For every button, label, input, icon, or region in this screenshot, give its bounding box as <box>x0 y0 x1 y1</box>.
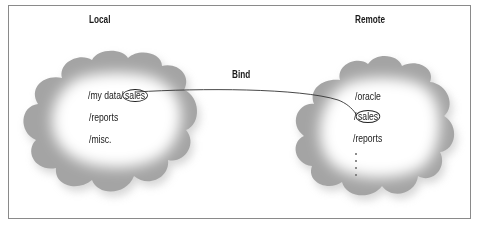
remote-path-oracle: /oracle <box>355 90 381 102</box>
remote-path-sales: /sales <box>354 110 381 123</box>
remote-cloud <box>296 56 458 200</box>
path-prefix: /my data/ <box>88 89 123 101</box>
local-cloud <box>23 51 200 197</box>
sales-highlight-oval: sales <box>123 89 148 102</box>
bind-label: Bind <box>232 69 250 80</box>
sales-highlight-oval: sales <box>356 110 381 123</box>
local-path-my-data-sales: /my data/sales <box>88 89 148 102</box>
local-path-misc: /misc. <box>89 133 111 145</box>
local-title: Local <box>89 14 110 25</box>
remote-path-reports: /reports <box>353 132 382 144</box>
diagram-canvas <box>0 0 477 227</box>
remote-title: Remote <box>355 14 385 25</box>
local-path-reports: /reports <box>89 111 118 123</box>
